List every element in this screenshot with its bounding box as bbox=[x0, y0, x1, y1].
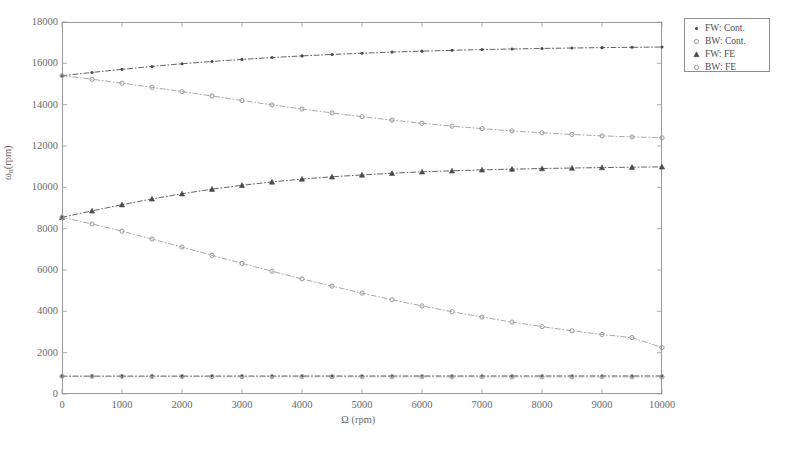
legend-marker-icon bbox=[688, 49, 705, 60]
series-1 bbox=[60, 74, 664, 140]
chart-canvas bbox=[0, 0, 790, 449]
series-3 bbox=[60, 215, 664, 349]
series-5 bbox=[60, 374, 664, 379]
series-0 bbox=[60, 45, 663, 77]
legend-marker-icon bbox=[688, 23, 705, 34]
figure-caption bbox=[28, 436, 768, 448]
chart-figure: 0200040006000800010000120001400016000180… bbox=[0, 0, 790, 449]
legend-marker-icon bbox=[688, 36, 705, 47]
axis-ticks bbox=[62, 22, 662, 394]
legend-label: BW: FE bbox=[705, 62, 736, 72]
legend-label: FW: Cont. bbox=[705, 23, 745, 34]
legend-label: FW: FE bbox=[705, 49, 735, 60]
legend-label: BW: Cont. bbox=[705, 36, 746, 47]
legend-entry: FW: Cont. bbox=[685, 22, 769, 35]
series-2 bbox=[59, 164, 664, 219]
legend-entry: BW: Cont. bbox=[685, 35, 769, 48]
legend-entry: BW: FE bbox=[685, 61, 769, 72]
legend-marker-icon bbox=[688, 62, 705, 72]
legend-entry: FW: FE bbox=[685, 48, 769, 61]
legend-box: FW: Cont.BW: Cont.FW: FEBW: FE bbox=[684, 18, 770, 72]
